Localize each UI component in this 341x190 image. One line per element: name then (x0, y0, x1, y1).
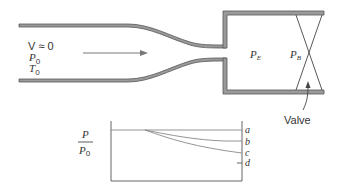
ylabel-denominator: P0 (78, 144, 91, 158)
curve-a-label: a (245, 124, 250, 135)
curve-d-label: d (245, 157, 251, 168)
chamber-top-wall (223, 11, 324, 48)
back-pressure-label: PB (289, 48, 302, 62)
valve-pointer-arrow-icon (303, 81, 311, 110)
pressure-plot: a b c d P P0 (78, 121, 251, 181)
valve-label: Valve (284, 114, 311, 126)
nozzle-diagram: V ≈ 0 P0 T0 PE PB Valve a b c d P P0 (0, 0, 341, 190)
ylabel-numerator: P (81, 128, 89, 140)
chamber-bottom-wall (223, 58, 324, 94)
nozzle-bottom-wall (19, 58, 226, 82)
curve-b-label: b (245, 136, 250, 147)
exit-pressure-label: PE (249, 48, 262, 62)
curve-c (145, 130, 242, 153)
flow-arrow-icon (83, 50, 148, 56)
